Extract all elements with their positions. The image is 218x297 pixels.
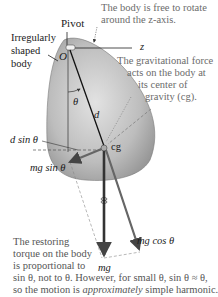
body-label-line2: shaped bbox=[11, 45, 40, 57]
torque-note-emphasis: approximately bbox=[82, 284, 142, 295]
torque-note-line5c: simple harmonic. bbox=[143, 284, 218, 295]
d-label: d bbox=[94, 109, 99, 121]
theta-label: θ bbox=[73, 96, 78, 108]
rotate-note-line2: around the z-axis. bbox=[101, 14, 176, 26]
gravity-note-line1: The gravitational force bbox=[117, 55, 213, 67]
pivot-label: Pivot bbox=[61, 17, 84, 29]
construction-dash-bottom bbox=[104, 252, 140, 258]
gravity-note-line4: gravity (cg). bbox=[145, 91, 197, 103]
torque-note-line3: is proportional to bbox=[13, 260, 85, 273]
cg-label: cg bbox=[111, 141, 121, 153]
d-sin-theta-label: d sin θ bbox=[10, 134, 38, 146]
torque-note-line4: sin θ, not to θ. However, for small θ, s… bbox=[13, 272, 208, 285]
body-label-line1: Irregularly bbox=[11, 32, 56, 44]
rotate-note-leader bbox=[94, 27, 97, 42]
origin-label: O bbox=[59, 50, 67, 62]
torque-note-line5: so the motion is approximately simple ha… bbox=[13, 284, 218, 297]
torque-note-line2: torque on the body bbox=[13, 248, 92, 261]
rotate-note-line1: The body is free to rotate bbox=[101, 2, 207, 14]
mg-cos-theta-label: mg cos θ bbox=[137, 235, 174, 247]
torque-note-line5a: so the motion is bbox=[13, 284, 82, 295]
z-axis-label: z bbox=[140, 41, 144, 53]
body-label-line3: body bbox=[11, 58, 32, 70]
torque-note-line1: The restoring bbox=[13, 236, 69, 249]
gravity-note-line2: acts on the body at bbox=[127, 67, 206, 79]
gravity-note-line3: its center of bbox=[138, 79, 188, 91]
mg-sin-theta-label: mg sin θ bbox=[30, 162, 66, 174]
cg-point bbox=[101, 145, 107, 151]
pivot-pin bbox=[66, 45, 75, 50]
